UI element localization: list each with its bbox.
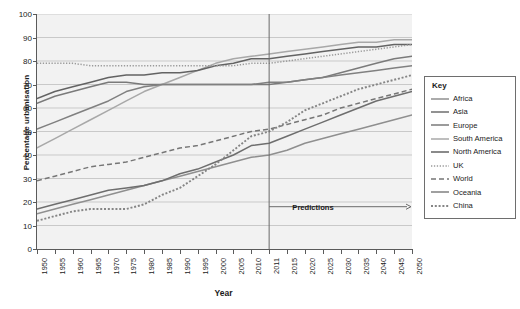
y-tick-label: 40 — [4, 151, 32, 160]
x-tick-mark — [91, 249, 92, 254]
series-line-europe — [37, 56, 412, 103]
x-tick-mark — [144, 249, 145, 254]
x-tick-mark — [73, 249, 74, 254]
legend-line-swatch-icon — [431, 95, 449, 103]
x-tick-mark — [126, 249, 127, 254]
legend-item-oceania[interactable]: Oceania — [431, 186, 511, 199]
legend-item-china[interactable]: China — [431, 199, 511, 212]
x-tick-label: 1950 — [40, 258, 49, 274]
legend-line-swatch-icon — [431, 108, 449, 116]
legend-line-swatch-icon — [431, 202, 449, 210]
y-tick-mark — [33, 38, 37, 39]
x-tick-mark — [37, 249, 38, 254]
y-tick-label: 100 — [4, 10, 32, 19]
x-tick-label: 1955 — [58, 258, 67, 274]
x-tick-label: 2020 — [308, 258, 317, 274]
x-tick-mark — [269, 249, 270, 254]
legend-item-label: Europe — [453, 122, 478, 130]
legend-item-world[interactable]: World — [431, 172, 511, 185]
legend-item-north-america[interactable]: North America — [431, 146, 511, 159]
x-tick-mark — [233, 249, 234, 254]
legend-item-label: North America — [453, 148, 501, 156]
legend-item-europe[interactable]: Europe — [431, 119, 511, 132]
x-tick-label: 2030 — [344, 258, 353, 274]
x-tick-mark — [55, 249, 56, 254]
predictions-arrow — [269, 204, 411, 209]
x-tick-label: 1985 — [165, 258, 174, 274]
y-tick-mark — [33, 155, 37, 156]
y-tick-mark — [33, 226, 37, 227]
x-tick-mark — [341, 249, 342, 254]
x-tick-mark — [198, 249, 199, 254]
x-tick-mark — [162, 249, 163, 254]
series-line-oceania — [37, 66, 412, 129]
x-axis-title: Year — [36, 288, 411, 298]
legend-item-label: Africa — [453, 95, 472, 103]
y-tick-mark — [33, 132, 37, 133]
x-tick-label: 2040 — [379, 258, 388, 274]
series-line-africa — [37, 115, 412, 214]
x-tick-label: 1960 — [76, 258, 85, 274]
x-tick-label: 2045 — [397, 258, 406, 274]
y-tick-label: 50 — [4, 127, 32, 136]
legend-title: Key — [432, 81, 511, 90]
y-tick-label: 10 — [4, 221, 32, 230]
y-tick-label: 0 — [4, 245, 32, 254]
x-tick-label: 1980 — [147, 258, 156, 274]
y-tick-label: 80 — [4, 57, 32, 66]
y-tick-label: 90 — [4, 33, 32, 42]
legend-item-label: UK — [453, 162, 464, 170]
series-line-asia — [37, 92, 412, 210]
legend-line-swatch-icon — [431, 175, 449, 183]
x-tick-label: 2005 — [237, 258, 246, 274]
x-tick-label: 2000 — [219, 258, 228, 274]
legend-item-asia[interactable]: Asia — [431, 105, 511, 118]
x-tick-mark — [216, 249, 217, 254]
y-tick-mark — [33, 202, 37, 203]
legend-item-africa[interactable]: Africa — [431, 92, 511, 105]
x-tick-label: 2050 — [415, 258, 424, 274]
legend-item-label: South America — [453, 135, 502, 143]
x-tick-label: 1965 — [94, 258, 103, 274]
legend-item-label: China — [453, 202, 473, 210]
chart-root: Percentage urbanisation 0102030405060708… — [0, 0, 520, 309]
x-tick-mark — [180, 249, 181, 254]
y-tick-mark — [33, 179, 37, 180]
x-tick-label: 2025 — [326, 258, 335, 274]
x-tick-mark — [358, 249, 359, 254]
x-tick-label: 1995 — [201, 258, 210, 274]
x-tick-label: 2015 — [290, 258, 299, 274]
plot-area: 0102030405060708090100 19501955196019651… — [36, 14, 412, 250]
x-tick-mark — [305, 249, 306, 254]
legend-rows: AfricaAsiaEuropeSouth AmericaNorth Ameri… — [431, 92, 511, 213]
y-tick-label: 30 — [4, 174, 32, 183]
y-tick-mark — [33, 85, 37, 86]
legend-line-swatch-icon — [431, 162, 449, 170]
legend-line-swatch-icon — [431, 121, 449, 129]
x-tick-label: 1970 — [112, 258, 121, 274]
chart-canvas — [37, 14, 412, 249]
legend-line-swatch-icon — [431, 135, 449, 143]
legend-line-swatch-icon — [431, 188, 449, 196]
x-tick-mark — [287, 249, 288, 254]
legend-item-label: Asia — [453, 108, 468, 116]
x-tick-label: 1990 — [183, 258, 192, 274]
legend-item-label: World — [453, 175, 473, 183]
x-tick-label: 2035 — [362, 258, 371, 274]
x-tick-mark — [108, 249, 109, 254]
legend-item-south-america[interactable]: South America — [431, 132, 511, 145]
x-tick-mark — [323, 249, 324, 254]
legend-item-uk[interactable]: UK — [431, 159, 511, 172]
x-tick-mark — [394, 249, 395, 254]
y-tick-mark — [33, 61, 37, 62]
legend-line-swatch-icon — [431, 148, 449, 156]
x-tick-mark — [376, 249, 377, 254]
legend: Key AfricaAsiaEuropeSouth AmericaNorth A… — [424, 76, 516, 219]
x-tick-label: 1975 — [129, 258, 138, 274]
x-tick-mark — [412, 249, 413, 254]
y-tick-label: 70 — [4, 80, 32, 89]
y-tick-mark — [33, 14, 37, 15]
series-line-world — [37, 89, 412, 181]
x-tick-mark — [251, 249, 252, 254]
y-tick-label: 20 — [4, 198, 32, 207]
